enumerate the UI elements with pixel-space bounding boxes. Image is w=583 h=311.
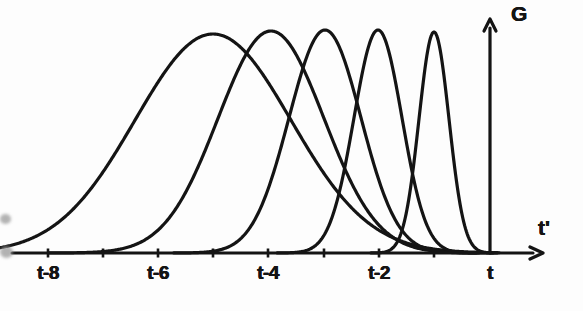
scan-smudge	[0, 246, 13, 258]
kernel-curve-kernel-3	[174, 30, 476, 253]
kernel-curve-kernel-5	[371, 32, 497, 253]
scan-smudge	[0, 214, 11, 224]
gaussian-basis-figure: t-8t-6t-4t-2t G t'	[0, 0, 583, 311]
x-axis-tick-label: t-6	[147, 262, 169, 284]
kernel-curves-group	[0, 30, 499, 253]
plot-canvas	[0, 0, 583, 311]
x-axis-tick-label: t	[487, 262, 493, 284]
x-axis-label: t'	[538, 216, 550, 240]
x-axis-tick-label: t-8	[37, 262, 59, 284]
x-axis-tick-label: t-2	[368, 262, 390, 284]
x-axis-tick-label: t-4	[257, 262, 279, 284]
y-axis-label: G	[511, 2, 527, 26]
kernel-curve-kernel-4	[277, 30, 479, 253]
